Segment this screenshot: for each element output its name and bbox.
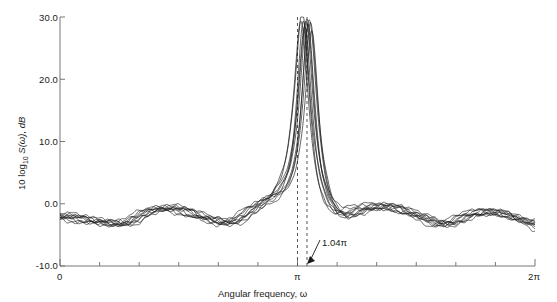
spectrum-plot-svg	[0, 0, 557, 302]
y-tick-label-0: 0.0	[44, 198, 58, 209]
peak-annotation-label: 1.04π	[322, 237, 347, 248]
y-tick-label-20: 20.0	[39, 74, 58, 85]
y-axis-title-sub: 10	[22, 156, 29, 164]
y-axis-title-prefix: 10 log	[16, 164, 27, 190]
y-axis-title-suffix: S(ω), dB	[16, 117, 27, 157]
y-tick-label-10: 10.0	[39, 136, 58, 147]
x-axis-title: Angular frequency, ω	[218, 288, 307, 299]
x-tick-label-pi: π	[294, 271, 301, 282]
x-tick-label-2pi: 2π	[528, 271, 540, 282]
y-tick-label-30: 30.0	[39, 12, 58, 23]
arrow-head	[307, 256, 315, 264]
y-tick-label-neg10: -10.0	[36, 260, 58, 271]
chart-figure: 30.0 20.0 10.0 0.0 -10.0 0 π 2π 10 log10…	[0, 0, 557, 302]
y-axis-ticks	[60, 17, 65, 266]
annotation-arrow	[307, 240, 320, 264]
x-tick-label-0: 0	[57, 271, 62, 282]
y-axis-title: 10 log10 S(ω), dB	[16, 117, 29, 190]
